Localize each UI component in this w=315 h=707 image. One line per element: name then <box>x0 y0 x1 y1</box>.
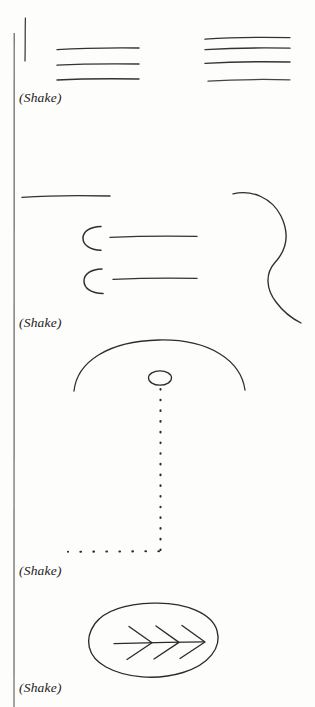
caption-shake-2: (Shake) <box>19 316 62 330</box>
stroke-dotted-horizontal <box>68 551 159 552</box>
caption-shake-4: (Shake) <box>19 681 62 695</box>
stroke-line-left-1 <box>57 48 139 50</box>
stroke-line-left-2 <box>57 64 139 65</box>
stroke-line-right-4 <box>208 80 290 82</box>
panel-4-strokes <box>89 603 218 677</box>
stroke-line-left-3 <box>57 79 139 80</box>
stroke-dome-arc <box>74 340 245 391</box>
stroke-line-right-1 <box>205 37 290 39</box>
stroke-line-top <box>22 196 110 198</box>
stroke-line-hook-1 <box>110 236 197 237</box>
stroke-line-right-3 <box>205 62 290 64</box>
panel-2-strokes <box>22 193 301 323</box>
stroke-oval <box>89 603 218 677</box>
diagram-artboard <box>0 0 315 707</box>
panel-3-strokes <box>68 340 245 552</box>
stroke-line-right-2 <box>205 48 290 50</box>
stroke-c-hook-1 <box>83 227 101 251</box>
panel-1-strokes <box>25 18 290 81</box>
stroke-s-curve <box>233 193 301 323</box>
stroke-c-hook-2 <box>84 269 103 294</box>
stroke-line-hook-2 <box>113 278 197 279</box>
scanned-page: (Shake) (Shake) (Shake) (Shake) <box>0 0 315 707</box>
caption-shake-1: (Shake) <box>19 91 62 105</box>
stroke-arrow-shaft <box>114 642 204 644</box>
stroke-small-ellipse <box>149 371 172 385</box>
caption-shake-3: (Shake) <box>19 564 62 578</box>
